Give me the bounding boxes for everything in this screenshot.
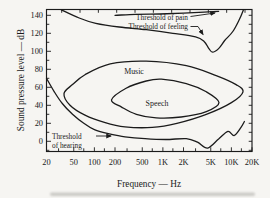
x-tick-label: 5K [206,158,216,167]
x-axis-title: Frequency — Hz [117,179,181,189]
y-tick-label: 100 [30,47,43,56]
y-axis-title: Sound pressure level — dB [16,29,26,131]
pain-label: Threshold of pain [136,13,188,22]
y-tick-label: 140 [30,11,43,20]
feeling-label: Threshold of feeling [128,22,188,31]
x-tick-label: 100 [88,158,101,167]
pain-arrow [191,13,216,17]
y-tick-label: 0 [39,137,43,146]
y-tick-label: 60 [35,83,43,92]
x-tick-label: 20K [245,158,259,167]
x-tick-label: 50 [70,158,78,167]
x-tick-label: 10K [224,158,238,167]
page-shadow [50,193,255,196]
x-tick-label: 1K [158,158,168,167]
music-label: Music [124,67,144,76]
hearing-label-line1: Threshold [52,132,82,141]
figure: 02040608010012014020501002005001K2K5K10K… [0,0,270,198]
y-tick-label: 20 [35,119,43,128]
speech-label: Speech [146,99,169,108]
x-tick-label: 500 [136,158,149,167]
spl-frequency-chart: 02040608010012014020501002005001K2K5K10K… [0,0,270,198]
y-tick-label: 40 [35,101,43,110]
x-tick-label: 2K [178,158,188,167]
y-tick-label: 80 [35,65,43,74]
hearing-label-line2: of hearing [52,141,82,150]
x-tick-label: 200 [109,158,122,167]
y-tick-label: 120 [30,29,43,38]
feeling-arrow [191,27,204,35]
x-tick-label: 20 [42,158,50,167]
